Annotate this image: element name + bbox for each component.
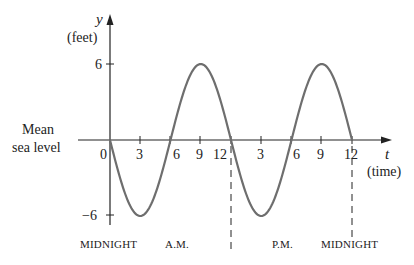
x-axis-arrow-icon: [381, 137, 392, 144]
y-axis-label: y: [94, 11, 103, 27]
y-axis-arrow-icon: [107, 14, 114, 25]
svg-text:3: 3: [136, 147, 143, 162]
period-label-pm: P.M.: [272, 238, 293, 250]
period-label-midnight-end: MIDNIGHT: [321, 238, 378, 250]
sea-level-chart: y (feet) t (time) Mean sea level 6 −6 0 …: [0, 0, 414, 265]
period-label-am: A.M.: [165, 238, 189, 250]
svg-text:0: 0: [100, 147, 107, 162]
svg-text:6: 6: [173, 147, 180, 162]
svg-text:3: 3: [257, 147, 264, 162]
svg-text:9: 9: [196, 147, 203, 162]
svg-text:9: 9: [317, 147, 324, 162]
x-axis-unit: (time): [367, 164, 402, 180]
y-axis-unit: (feet): [67, 30, 98, 46]
mean-label: Mean: [22, 122, 54, 137]
svg-text:6: 6: [293, 147, 300, 162]
sea-level-label: sea level: [12, 140, 61, 155]
period-label-midnight-start: MIDNIGHT: [80, 238, 137, 250]
svg-text:12: 12: [213, 147, 227, 162]
y-tick-label-neg6: −6: [82, 208, 97, 223]
y-tick-label-6: 6: [95, 57, 102, 72]
x-axis-label: t: [385, 146, 390, 162]
svg-text:12: 12: [344, 147, 358, 162]
x-tick-labels: 0 3 6 9 12 3 6 9 12: [100, 147, 358, 162]
